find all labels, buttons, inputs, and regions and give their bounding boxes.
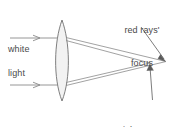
white-light-label-line2: light xyxy=(8,68,25,79)
white-light-label-line1: white xyxy=(8,44,30,55)
violet-rays-focus-label: violet rays' focus xyxy=(103,103,177,127)
red-rays-focus-label: red rays' focus xyxy=(109,3,175,91)
red-rays-focus-label-line1: red rays' xyxy=(109,25,175,36)
red-rays-focus-label-line2: focus xyxy=(109,58,175,69)
optics-diagram: white light red rays' focus violet rays'… xyxy=(0,0,178,127)
violet-rays-focus-label-line1: violet rays' xyxy=(103,125,177,127)
biconvex-lens xyxy=(56,20,69,101)
